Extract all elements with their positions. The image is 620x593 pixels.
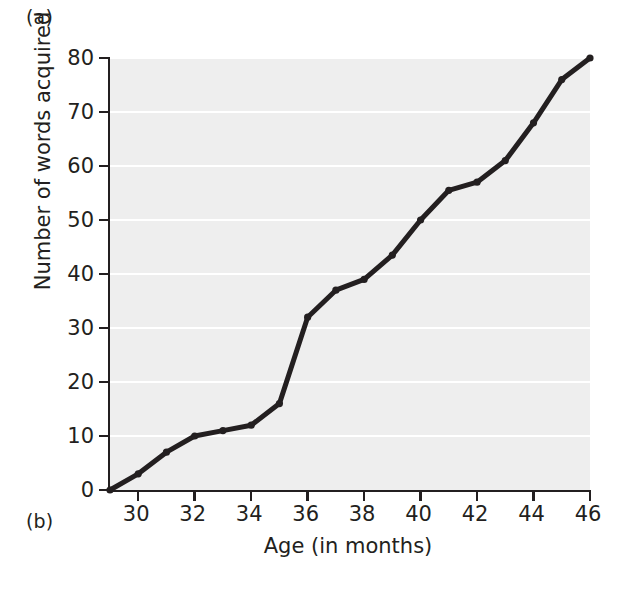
y-tick-label-30: 30 xyxy=(67,316,94,340)
x-tick-mark xyxy=(193,490,196,501)
y-tick-mark xyxy=(99,381,110,384)
data-point xyxy=(558,76,565,83)
data-point xyxy=(473,179,480,186)
y-tick-mark xyxy=(99,111,110,114)
data-point xyxy=(135,470,142,477)
x-tick-label-32: 32 xyxy=(179,502,206,526)
plot-area xyxy=(108,58,590,492)
y-tick-label-80: 80 xyxy=(67,46,94,70)
x-tick-label-44: 44 xyxy=(518,502,545,526)
y-tick-label-10: 10 xyxy=(67,424,94,448)
y-tick-mark xyxy=(99,435,110,438)
x-tick-mark xyxy=(589,490,592,501)
y-tick-label-20: 20 xyxy=(67,370,94,394)
y-axis-title: Number of words acquired xyxy=(31,0,55,316)
y-tick-label-50: 50 xyxy=(67,208,94,232)
data-point xyxy=(248,422,255,429)
panel-label-b: (b) xyxy=(26,510,54,532)
data-point xyxy=(163,449,170,456)
data-line-chart xyxy=(110,58,590,490)
data-point xyxy=(332,287,339,294)
data-point xyxy=(445,187,452,194)
x-tick-label-42: 42 xyxy=(462,502,489,526)
x-tick-label-38: 38 xyxy=(349,502,376,526)
data-point xyxy=(219,427,226,434)
data-point xyxy=(191,432,198,439)
x-tick-mark xyxy=(363,490,366,501)
y-tick-label-0: 0 xyxy=(81,478,94,502)
x-tick-label-36: 36 xyxy=(292,502,319,526)
data-point xyxy=(304,314,311,321)
x-tick-mark xyxy=(532,490,535,501)
x-tick-mark xyxy=(476,490,479,501)
x-axis-tick-labels: 303234363840424446 xyxy=(108,502,588,530)
y-tick-label-40: 40 xyxy=(67,262,94,286)
plot-inner xyxy=(110,58,590,490)
x-tick-label-46: 46 xyxy=(575,502,602,526)
data-point xyxy=(502,157,509,164)
y-tick-mark xyxy=(99,57,110,60)
x-tick-label-34: 34 xyxy=(236,502,263,526)
data-point xyxy=(361,276,368,283)
x-tick-label-30: 30 xyxy=(123,502,150,526)
data-point xyxy=(417,216,424,223)
y-tick-mark xyxy=(99,165,110,168)
y-tick-mark xyxy=(99,273,110,276)
x-tick-label-40: 40 xyxy=(405,502,432,526)
y-tick-label-60: 60 xyxy=(67,154,94,178)
data-point xyxy=(586,54,593,61)
x-axis-title: Age (in months) xyxy=(108,534,588,558)
x-tick-mark xyxy=(419,490,422,501)
x-tick-mark xyxy=(306,490,309,501)
data-point xyxy=(389,252,396,259)
data-point xyxy=(530,119,537,126)
figure-container: (a) (b) 01020304050607080 30323436384042… xyxy=(0,0,620,593)
data-point xyxy=(106,486,113,493)
data-line xyxy=(110,58,590,490)
x-tick-mark xyxy=(250,490,253,501)
data-point xyxy=(276,400,283,407)
x-tick-mark xyxy=(137,490,140,501)
y-tick-mark xyxy=(99,219,110,222)
y-tick-mark xyxy=(99,327,110,330)
y-tick-label-70: 70 xyxy=(67,100,94,124)
